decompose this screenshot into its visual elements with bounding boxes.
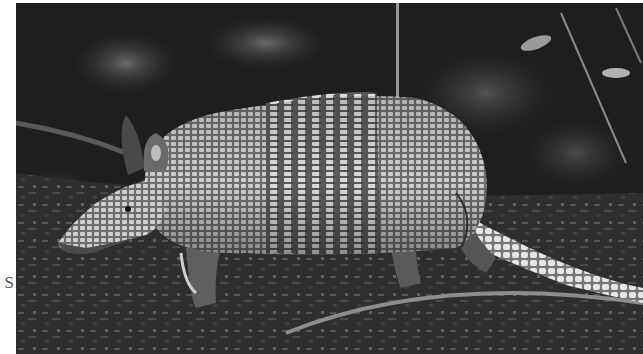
photo-illustration [16,3,643,354]
margin-text-fragment: S [0,274,14,291]
armadillo-photo [16,3,643,354]
